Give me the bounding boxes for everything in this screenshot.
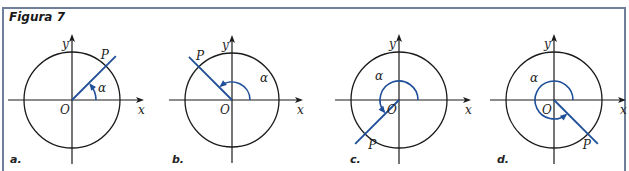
- panel-label: b.: [172, 153, 184, 166]
- point-p-label: P: [100, 48, 110, 62]
- point-p-label: P: [582, 138, 592, 152]
- panel-label: c.: [350, 153, 361, 166]
- arc-arrow-icon: [89, 83, 96, 90]
- terminal-ray: [554, 100, 598, 144]
- y-axis-label: y: [221, 38, 229, 52]
- x-axis-label: x: [620, 103, 627, 117]
- alpha-label: α: [530, 71, 538, 85]
- arc-arrow-icon: [219, 80, 226, 87]
- origin-label: O: [220, 103, 230, 117]
- panel-b: OxyPαb.: [169, 35, 304, 166]
- panel-a: OxyPαa.: [8, 34, 145, 166]
- terminal-ray: [189, 57, 232, 100]
- panel-label: a.: [10, 153, 22, 166]
- panel-c: OxyPαc.: [335, 34, 472, 166]
- alpha-label: α: [260, 71, 268, 85]
- alpha-label: α: [98, 81, 106, 95]
- y-axis-label: y: [388, 37, 396, 51]
- x-axis-label: x: [138, 103, 145, 117]
- arc-arrow-icon: [560, 114, 567, 121]
- x-axis-label: x: [465, 103, 472, 117]
- unit-circle-diagrams: OxyPαa.OxyPαb.OxyPαc.OxyPαd.: [0, 0, 629, 171]
- panel-label: d.: [497, 153, 509, 166]
- origin-label: O: [60, 103, 70, 117]
- point-p-label: P: [367, 138, 377, 152]
- arc-arrow-icon: [379, 106, 386, 113]
- y-axis-label: y: [543, 37, 551, 51]
- point-p-label: P: [195, 49, 205, 63]
- y-axis-label: y: [61, 37, 69, 51]
- origin-label: O: [542, 103, 552, 117]
- figure-7: Figura 7 OxyPαa.OxyPαb.OxyPαc.OxyPαd.: [0, 0, 629, 171]
- terminal-ray: [72, 56, 116, 100]
- x-axis-label: x: [297, 103, 304, 117]
- origin-label: O: [387, 103, 397, 117]
- alpha-label: α: [375, 69, 383, 83]
- panel-d: OxyPαd.: [490, 34, 627, 166]
